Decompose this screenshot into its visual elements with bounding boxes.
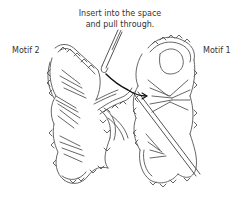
crochet-join-illustration (0, 0, 240, 202)
joining-chain (98, 88, 134, 140)
